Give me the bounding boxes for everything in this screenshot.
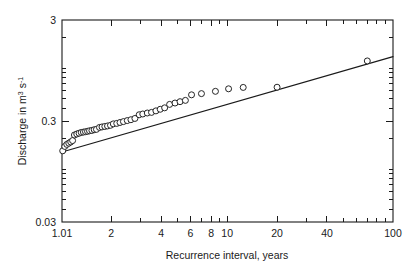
data-point-marker — [274, 84, 280, 90]
x-tick-label: 40 — [321, 227, 333, 239]
x-tick-label: 20 — [271, 227, 283, 239]
x-axis-title: Recurrence interval, years — [166, 249, 289, 261]
data-point-marker — [212, 88, 218, 94]
x-tick-label: 2 — [108, 227, 114, 239]
chart-canvas: 1.012468102040100 30.30.03 Recurrence in… — [0, 0, 420, 271]
data-point-marker — [182, 97, 188, 103]
svg-text:Discharge in m3 s-1: Discharge in m3 s-1 — [16, 77, 28, 165]
y-tick-label: 0.3 — [41, 115, 56, 127]
x-tick-label: 6 — [187, 227, 193, 239]
y-axis-title-lead: Discharge in m — [16, 95, 28, 165]
fit-line — [62, 57, 393, 152]
y-axis-title-mid: s — [16, 83, 28, 91]
y-axis-title-exponent-minus1: -1 — [17, 77, 24, 83]
y-tick-label: 3 — [50, 14, 56, 26]
x-tick-label: 10 — [221, 227, 233, 239]
y-axis-title: Discharge in m3 s-1 — [16, 77, 28, 165]
y-tick-labels: 30.30.03 — [36, 14, 57, 228]
data-point-marker — [364, 58, 370, 64]
y-tick-label: 0.03 — [36, 216, 57, 228]
data-point-marker — [189, 92, 195, 98]
x-tick-label: 1.01 — [52, 227, 73, 239]
data-point-marker — [198, 91, 204, 97]
x-tick-labels: 1.012468102040100 — [52, 227, 402, 239]
data-point-marker — [240, 84, 246, 90]
x-tick-label: 8 — [208, 227, 214, 239]
data-point-marker — [70, 138, 76, 144]
data-point-marker — [226, 86, 232, 92]
x-tick-label: 4 — [158, 227, 164, 239]
x-tick-label: 100 — [384, 227, 402, 239]
flood-frequency-chart: 1.012468102040100 30.30.03 Recurrence in… — [0, 0, 420, 271]
